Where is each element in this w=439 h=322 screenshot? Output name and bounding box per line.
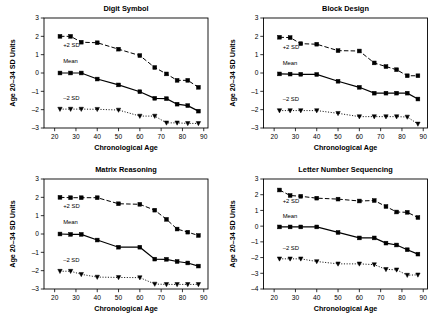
- data-point-square: [315, 42, 319, 46]
- data-point-triangle: [58, 269, 62, 273]
- data-point-square: [69, 232, 73, 236]
- y-tick-label: 2: [255, 33, 259, 40]
- data-point-triangle: [164, 283, 168, 287]
- x-tick-label: 20: [270, 133, 278, 140]
- data-point-square: [69, 34, 73, 38]
- data-point-square: [117, 245, 121, 249]
- x-tick-label: 40: [313, 294, 321, 301]
- data-point-square: [95, 77, 99, 81]
- series-annotation: +2 SD: [63, 42, 80, 48]
- series-annotation: –2 SD: [63, 95, 79, 101]
- data-point-square: [357, 49, 361, 53]
- x-tick-label: 70: [157, 294, 165, 301]
- data-point-square: [372, 91, 376, 95]
- x-tick-label: 30: [72, 294, 80, 301]
- y-tick-label: 2: [255, 191, 259, 198]
- x-tick-label: 70: [377, 294, 385, 301]
- x-tick-label: 20: [270, 294, 278, 301]
- data-point-square: [58, 195, 62, 199]
- chart-title: Block Design: [322, 4, 369, 13]
- data-point-triangle: [416, 273, 420, 277]
- data-point-triangle: [186, 122, 190, 126]
- chart-title: Letter Number Sequencing: [298, 165, 393, 174]
- data-point-triangle: [175, 121, 179, 125]
- data-point-triangle: [79, 272, 83, 276]
- y-tick-label: 1: [255, 51, 259, 58]
- y-tick-label: –1: [32, 88, 40, 95]
- y-tick-label: 0: [255, 69, 259, 76]
- x-tick-label: 70: [157, 133, 165, 140]
- data-point-triangle: [277, 109, 281, 113]
- data-point-square: [175, 102, 179, 106]
- data-point-triangle: [153, 282, 157, 286]
- series-mean: [278, 225, 420, 256]
- data-point-square: [372, 199, 376, 203]
- data-point-square: [117, 202, 121, 206]
- x-tick-label: 30: [292, 133, 300, 140]
- data-point-square: [372, 61, 376, 65]
- series-minus-2sd: [277, 109, 420, 127]
- data-point-triangle: [277, 257, 281, 261]
- data-point-square: [357, 236, 361, 240]
- data-point-square: [416, 97, 420, 101]
- data-point-square: [69, 71, 73, 75]
- data-point-square: [197, 234, 201, 238]
- y-tick-label: 0: [255, 223, 259, 230]
- data-point-square: [288, 225, 292, 229]
- series-annotation: +2 SD: [63, 203, 80, 209]
- x-tick-label: 70: [377, 133, 385, 140]
- y-tick-label: –2: [251, 254, 259, 261]
- series-line: [279, 259, 417, 275]
- y-axis-label: Age 20–34 SD Units: [228, 39, 237, 107]
- y-tick-label: 3: [255, 14, 259, 21]
- data-point-square: [416, 252, 420, 256]
- series-annotation: –2 SD: [63, 257, 79, 263]
- data-point-square: [186, 78, 190, 82]
- data-point-square: [165, 257, 169, 261]
- data-point-square: [336, 197, 340, 201]
- data-point-square: [69, 196, 73, 200]
- data-point-square: [336, 79, 340, 83]
- x-tick-label: 80: [179, 294, 187, 301]
- data-point-square: [165, 72, 169, 76]
- data-point-square: [372, 236, 376, 240]
- x-tick-label: 50: [115, 133, 123, 140]
- series-minus-2sd: [58, 107, 201, 125]
- panel-digit-symbol: Digit Symbol–3–2–101232030405060708090Ch…: [0, 0, 219, 161]
- x-tick-label: 90: [200, 133, 208, 140]
- y-axis-label: Age 20–34 SD Units: [228, 200, 237, 268]
- data-point-square: [357, 85, 361, 89]
- data-point-square: [395, 91, 399, 95]
- data-point-square: [58, 71, 62, 75]
- y-tick-label: –4: [251, 285, 259, 292]
- x-axis-label: Chronological Age: [94, 143, 158, 152]
- data-point-square: [384, 241, 388, 245]
- data-point-square: [278, 35, 282, 39]
- x-tick-label: 90: [420, 133, 428, 140]
- data-point-square: [138, 90, 142, 94]
- data-point-square: [197, 85, 201, 89]
- x-tick-label: 40: [94, 133, 102, 140]
- y-tick-label: –2: [32, 106, 40, 113]
- data-point-square: [153, 66, 157, 70]
- x-tick-label: 40: [313, 133, 321, 140]
- y-tick-label: 3: [35, 175, 39, 182]
- data-point-square: [416, 216, 420, 220]
- data-point-square: [395, 210, 399, 214]
- data-point-square: [357, 199, 361, 203]
- series-annotation: +2 SD: [283, 44, 300, 50]
- x-axis-label: Chronological Age: [314, 304, 378, 313]
- x-tick-label: 60: [136, 133, 144, 140]
- chart-svg: Letter Number Sequencing–4–3–2–101232030…: [219, 161, 439, 322]
- data-point-square: [117, 47, 121, 51]
- data-point-square: [186, 230, 190, 234]
- series-minus-2sd: [277, 257, 420, 278]
- data-point-square: [299, 194, 303, 198]
- chart-svg: Block Design–3–2–101232030405060708090Ch…: [219, 0, 439, 161]
- data-point-square: [395, 243, 399, 247]
- series-annotation: +2 SD: [283, 198, 300, 204]
- x-tick-label: 50: [334, 133, 342, 140]
- data-point-triangle: [405, 273, 409, 277]
- data-point-square: [299, 72, 303, 76]
- data-point-square: [79, 196, 83, 200]
